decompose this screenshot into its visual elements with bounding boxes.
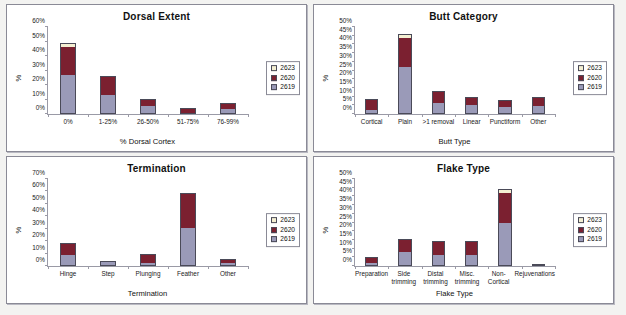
x-axis-tick-mark xyxy=(248,266,249,269)
stacked-bar[interactable] xyxy=(498,100,511,114)
bar-segment-2619 xyxy=(101,262,115,265)
y-axis-tick-label: 70% xyxy=(32,169,45,176)
bar-segment-2619 xyxy=(399,252,410,265)
y-axis-tick-label: 30% xyxy=(32,60,45,67)
y-axis-tick-label: 45% xyxy=(339,177,352,184)
chart-panel: Dorsal Extent%0%10%20%30%40%50%60%0%1-25… xyxy=(6,4,307,152)
legend-swatch-icon xyxy=(271,75,277,81)
stacked-bar[interactable] xyxy=(532,97,545,114)
legend-item[interactable]: 2620 xyxy=(578,75,602,82)
bar-slot xyxy=(355,27,388,114)
bar-segment-2619 xyxy=(366,263,377,265)
y-axis-tick-label: 20% xyxy=(339,221,352,228)
stacked-bar[interactable] xyxy=(398,239,411,266)
legend-swatch-icon xyxy=(271,85,277,91)
stacked-bar[interactable] xyxy=(100,261,116,266)
y-axis-tick-label: 20% xyxy=(339,69,352,76)
x-axis-title: Butt Type xyxy=(354,137,555,146)
bar-slot xyxy=(128,179,168,266)
legend-item[interactable]: 2620 xyxy=(271,75,295,82)
chart-grid: Dorsal Extent%0%10%20%30%40%50%60%0%1-25… xyxy=(6,4,618,304)
stacked-bar[interactable] xyxy=(498,189,511,266)
legend-item[interactable]: 2623 xyxy=(271,65,295,72)
legend-label: 2619 xyxy=(587,236,602,243)
legend-swatch-icon xyxy=(271,65,277,71)
x-axis-tick-label: Non-Cortical xyxy=(483,270,515,285)
stacked-bar[interactable] xyxy=(465,241,478,266)
stacked-bar[interactable] xyxy=(532,264,545,266)
legend-item[interactable]: 2619 xyxy=(578,84,602,91)
legend-item[interactable]: 2619 xyxy=(271,236,295,243)
x-axis-tick-mark xyxy=(388,266,389,269)
x-axis-tick-label: Cortical xyxy=(355,118,388,126)
x-axis-tick-mark xyxy=(522,266,523,269)
y-axis-tick-label: 50% xyxy=(339,169,352,176)
x-axis-tick-label: 51-75% xyxy=(168,118,208,126)
stacked-bar[interactable] xyxy=(60,43,76,114)
legend-item[interactable]: 2620 xyxy=(578,227,602,234)
x-axis-tick-mark xyxy=(128,114,129,117)
bar-slot xyxy=(388,27,421,114)
legend-label: 2619 xyxy=(280,84,295,91)
legend-item[interactable]: 2623 xyxy=(271,217,295,224)
x-axis-tick-mark xyxy=(48,114,49,117)
stacked-bar[interactable] xyxy=(365,99,378,114)
x-axis-tick-mark xyxy=(88,266,89,269)
x-axis-tick-mark xyxy=(422,114,423,117)
x-axis-tick-label: Step xyxy=(88,270,128,278)
y-axis-tick-label: 0% xyxy=(343,256,352,263)
bar-segment-2619 xyxy=(141,106,155,113)
stacked-bar[interactable] xyxy=(432,91,445,114)
legend-swatch-icon xyxy=(578,237,584,243)
x-axis-tick-label: >1 removal xyxy=(422,118,455,126)
y-axis-tick-label: 5% xyxy=(343,95,352,102)
x-axis-tick-mark xyxy=(355,114,356,117)
legend-item[interactable]: 2623 xyxy=(578,217,602,224)
bar-segment-2620 xyxy=(61,244,75,255)
stacked-bar[interactable] xyxy=(398,34,411,114)
stacked-bar[interactable] xyxy=(220,103,236,114)
x-axis-tick-label: 76-99% xyxy=(208,118,248,126)
y-axis-tick-label: 10% xyxy=(339,86,352,93)
stacked-bar[interactable] xyxy=(365,257,378,266)
legend-swatch-icon xyxy=(578,65,584,71)
y-axis-tick-label: 25% xyxy=(339,212,352,219)
bar-segment-2619 xyxy=(221,263,235,265)
y-axis-tick-label: 20% xyxy=(32,75,45,82)
stacked-bar[interactable] xyxy=(140,254,156,266)
stacked-bar[interactable] xyxy=(465,97,478,114)
legend-item[interactable]: 2623 xyxy=(578,65,602,72)
legend-item[interactable]: 2620 xyxy=(271,227,295,234)
chart-legend: 262326202619 xyxy=(573,61,607,95)
x-axis-labels: PreparationSide trimmingDistal trimmingM… xyxy=(355,270,555,285)
plot-area: 0%5%10%15%20%25%30%35%40%45%50%Preparati… xyxy=(354,179,555,267)
y-axis-tick-label: 10% xyxy=(32,89,45,96)
x-axis-tick-mark xyxy=(208,266,209,269)
bar-slot xyxy=(388,179,421,266)
bar-segment-2619 xyxy=(221,109,235,113)
legend-item[interactable]: 2619 xyxy=(578,236,602,243)
y-axis-tick-label: 10% xyxy=(32,243,45,250)
chart-title: Flake Type xyxy=(314,163,613,174)
stacked-bar[interactable] xyxy=(60,243,76,266)
legend-swatch-icon xyxy=(271,217,277,223)
legend-label: 2620 xyxy=(587,75,602,82)
chart-legend: 262326202619 xyxy=(266,61,300,95)
stacked-bar[interactable] xyxy=(100,76,116,114)
stacked-bar[interactable] xyxy=(220,259,236,266)
x-axis-tick-label: Hinge xyxy=(48,270,88,278)
x-axis-tick-label: 0% xyxy=(48,118,88,126)
bar-slot xyxy=(522,179,555,266)
x-axis-tick-mark xyxy=(555,114,556,117)
bar-slot xyxy=(455,27,488,114)
y-axis-tick-label: 50% xyxy=(32,193,45,200)
bar-segment-2619 xyxy=(399,67,410,113)
stacked-bar[interactable] xyxy=(180,108,196,114)
stacked-bar[interactable] xyxy=(180,193,196,266)
y-axis-tick-label: 30% xyxy=(32,218,45,225)
stacked-bar[interactable] xyxy=(140,99,156,114)
bar-slot xyxy=(208,27,248,114)
stacked-bar[interactable] xyxy=(432,241,445,266)
legend-item[interactable]: 2619 xyxy=(271,84,295,91)
plot-area: 0%10%20%30%40%50%60%70%HingeStepPlunging… xyxy=(47,179,248,267)
